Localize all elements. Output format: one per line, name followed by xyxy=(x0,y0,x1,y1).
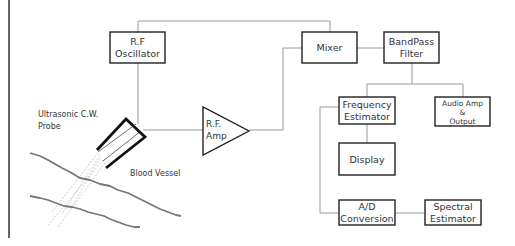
frequency-estimator-block: Frequency Estimator xyxy=(339,97,395,124)
wire-bandpass-audio xyxy=(412,84,463,97)
bandpass-label-2: Filter xyxy=(400,48,424,59)
rf-oscillator-label-1: R.F xyxy=(130,36,145,47)
ad-conversion-label-2: Conversion xyxy=(340,213,393,224)
rf-oscillator-block: R.F Oscillator xyxy=(110,32,165,63)
rf-amp-block: R.F. Amp xyxy=(203,107,249,155)
mixer-label: Mixer xyxy=(317,42,343,53)
frequency-estimator-label-2: Estimator xyxy=(344,111,390,122)
rf-amp-label-2: Amp xyxy=(206,131,227,141)
bandpass-filter-block: BandPass Filter xyxy=(384,32,439,63)
probe-annotation-1: Ultrasonic C.W. xyxy=(38,110,98,119)
display-label: Display xyxy=(349,154,384,165)
bandpass-label-1: BandPass xyxy=(389,36,434,47)
wire-rfamp-mixer xyxy=(249,48,302,130)
display-block: Display xyxy=(339,143,395,175)
wire-freq-ad xyxy=(320,107,339,213)
rf-amp-label-1: R.F. xyxy=(206,119,221,129)
wire-bandpass-freq xyxy=(367,63,412,97)
spectral-estimator-block: Spectral Estimator xyxy=(425,200,481,225)
blood-vessel-icon xyxy=(30,153,181,227)
mixer-block: Mixer xyxy=(302,32,357,63)
ad-conversion-block: A/D Conversion xyxy=(339,200,395,225)
spectral-estimator-label-2: Estimator xyxy=(430,213,476,224)
wire-oscillator-mixer xyxy=(138,21,330,32)
ad-conversion-label-1: A/D xyxy=(358,201,375,212)
block-diagram: R.F Oscillator Mixer BandPass Filter Fre… xyxy=(0,0,515,246)
ultrasonic-probe-icon xyxy=(97,119,145,168)
rf-oscillator-label-2: Oscillator xyxy=(115,48,160,59)
frequency-estimator-label-1: Frequency xyxy=(342,99,391,110)
probe-annotation-2: Probe xyxy=(38,122,61,131)
audio-amp-label-2: & xyxy=(460,108,466,117)
audio-amp-block: Audio Amp & Output xyxy=(435,97,490,126)
spectral-estimator-label-1: Spectral xyxy=(433,201,472,212)
audio-amp-label-1: Audio Amp xyxy=(442,99,483,108)
audio-amp-label-3: Output xyxy=(449,117,475,126)
blood-vessel-annotation: Blood Vessel xyxy=(130,169,180,178)
